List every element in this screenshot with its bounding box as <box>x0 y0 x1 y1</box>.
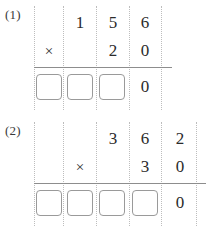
problem-2-bottom-digit-0 <box>33 156 65 178</box>
problem-2-answer-rule <box>34 183 206 184</box>
problem-1-answer-digit-fixed: 0 <box>129 76 161 98</box>
problem-2-answer-box-3[interactable] <box>132 190 158 216</box>
problem-2-top-digit-0 <box>33 128 65 150</box>
problem-1-bottom-digit-2: 2 <box>97 40 129 62</box>
problem-2-answer-box-2[interactable] <box>99 190 125 216</box>
problem-1-multiplication-sign: × <box>33 40 65 62</box>
problem-2-bottom-digit-3: 3 <box>129 156 161 178</box>
problem-2-answer-box-1[interactable] <box>67 190 93 216</box>
column-guide <box>161 6 162 110</box>
problem-2-bottom-digit-2 <box>97 156 129 178</box>
problem-1-answer-box-0[interactable] <box>36 74 62 100</box>
problem-1-top-digit-2: 5 <box>97 12 129 34</box>
problem-2-top-digit-3: 6 <box>129 128 161 150</box>
problem-1-bottom-digit-3: 0 <box>129 40 161 62</box>
problem-2-top-digit-2: 3 <box>97 128 129 150</box>
problem-2-top-digit-4: 2 <box>164 128 196 150</box>
problem-1-answer-box-1[interactable] <box>67 74 93 100</box>
column-guide <box>196 122 197 226</box>
column-guide <box>161 122 162 226</box>
problem-2: (2) 3 6 2 × 3 0 0 <box>0 116 212 232</box>
problem-2-answer-digit-fixed: 0 <box>164 192 196 214</box>
problem-1-top-digit-1: 1 <box>64 12 96 34</box>
problem-2-top-digit-1 <box>64 128 96 150</box>
problem-1-bottom-digit-1 <box>64 40 96 62</box>
problem-1: (1) 1 5 6 × 2 0 0 <box>0 0 212 116</box>
problem-1-top-digit-3: 6 <box>129 12 161 34</box>
problem-2-multiplication-sign: × <box>64 156 96 178</box>
problem-2-bottom-digit-4: 0 <box>164 156 196 178</box>
problem-2-answer-box-0[interactable] <box>36 190 62 216</box>
worksheet: (1) 1 5 6 × 2 0 0 (2) <box>0 0 212 232</box>
problem-1-answer-rule <box>34 67 172 68</box>
problem-1-top-digit-0 <box>33 12 65 34</box>
problem-1-answer-box-2[interactable] <box>99 74 125 100</box>
